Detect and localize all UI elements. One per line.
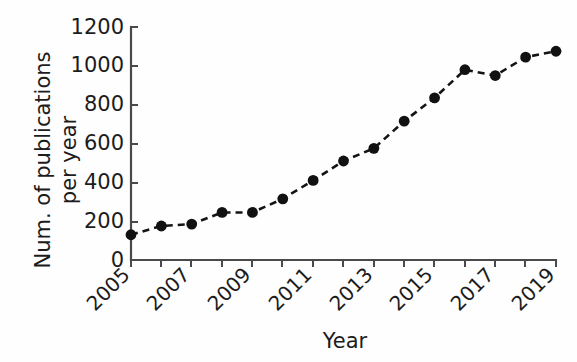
data-point-2006 (156, 221, 167, 232)
x-axis-label: Year (322, 329, 368, 353)
data-point-2013 (368, 143, 379, 154)
x-tick-label-2019: 2019 (507, 263, 560, 316)
data-point-2010 (277, 193, 288, 204)
publications-per-year-line-chart: Num. of publications per year 1200 1000 … (0, 0, 577, 362)
y-tick-label-1000: 1000 (71, 53, 124, 77)
data-point-2015 (429, 92, 440, 103)
data-point-2018 (520, 52, 531, 63)
x-tick-label-2015: 2015 (385, 263, 438, 316)
series-markers-publications (126, 46, 562, 240)
x-tick-label-2017: 2017 (446, 263, 499, 316)
y-axis-label: Num. of publications per year (31, 52, 81, 269)
x-tick-label-2013: 2013 (325, 263, 378, 316)
y-tick-label-200: 200 (84, 209, 124, 233)
y-tick-label-600: 600 (84, 131, 124, 155)
y-axis-label-line2: per year (57, 115, 81, 204)
data-point-2019 (551, 46, 562, 57)
y-tick-label-800: 800 (84, 92, 124, 116)
data-point-2008 (217, 207, 228, 218)
x-tick-labels: 2005 2007 2009 2011 2013 2015 2017 2019 (82, 263, 560, 316)
data-point-2007 (186, 219, 197, 230)
data-series-publications (126, 46, 562, 240)
chart-figure: Num. of publications per year 1200 1000 … (0, 0, 577, 362)
data-point-2012 (338, 156, 349, 167)
y-tick-label-1200: 1200 (71, 15, 124, 39)
data-point-2014 (399, 116, 410, 127)
data-point-2017 (490, 70, 501, 81)
x-tick-label-2011: 2011 (264, 263, 317, 316)
y-axis-label-line1: Num. of publications (31, 52, 55, 269)
data-point-2005 (126, 229, 137, 240)
x-tick-label-2009: 2009 (203, 263, 256, 316)
data-point-2016 (460, 64, 471, 75)
data-point-2011 (308, 175, 319, 186)
data-point-2009 (247, 207, 258, 218)
x-tick-label-2007: 2007 (142, 263, 195, 316)
y-tick-label-400: 400 (84, 170, 124, 194)
x-tick-label-2005: 2005 (82, 263, 135, 316)
